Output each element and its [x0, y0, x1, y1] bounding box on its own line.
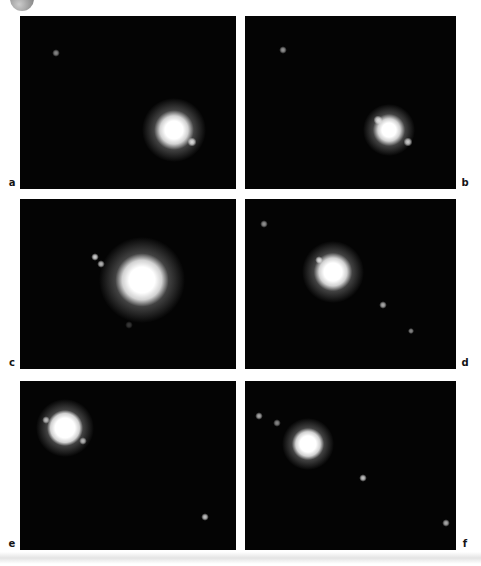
faint-star-dot [186, 136, 198, 148]
figure-page: abcdef [0, 0, 481, 566]
main-star-spot [36, 399, 94, 457]
main-star-spot [302, 241, 364, 303]
page-bottom-shade [0, 552, 481, 564]
faint-star-dot [372, 114, 384, 126]
faint-star-dot [51, 48, 61, 58]
panel-label-b: b [459, 178, 471, 188]
panel-label-a: a [6, 178, 18, 188]
panel-label-e: e [6, 539, 18, 549]
faint-star-dot [402, 136, 414, 148]
faint-star-dot [278, 45, 288, 55]
faint-star-dot [314, 255, 324, 265]
panel-label-c: c [6, 358, 18, 368]
main-star-spot [99, 237, 185, 323]
faint-star-dot [407, 327, 415, 335]
faint-star-dot [358, 473, 368, 483]
faint-star-dot [124, 320, 134, 330]
faint-star-dot [200, 512, 210, 522]
main-star-spot [142, 98, 206, 162]
faint-star-dot [378, 300, 388, 310]
faint-star-dot [272, 418, 282, 428]
figure-panel-a [20, 16, 236, 189]
faint-star-dot [41, 415, 51, 425]
figure-panel-f [245, 381, 456, 550]
figure-number-badge [10, 0, 34, 11]
panel-label-f: f [459, 539, 471, 549]
faint-star-dot [254, 411, 264, 421]
figure-panel-d [245, 199, 456, 369]
figure-panel-e [20, 381, 236, 550]
panel-label-d: d [459, 358, 471, 368]
main-star-spot [282, 418, 334, 470]
faint-star-dot [78, 436, 88, 446]
main-star-spot [363, 104, 415, 156]
figure-panel-c [20, 199, 236, 369]
figure-panel-b [245, 16, 456, 189]
faint-star-dot [441, 518, 451, 528]
faint-star-dot [96, 259, 106, 269]
faint-star-dot [259, 219, 269, 229]
